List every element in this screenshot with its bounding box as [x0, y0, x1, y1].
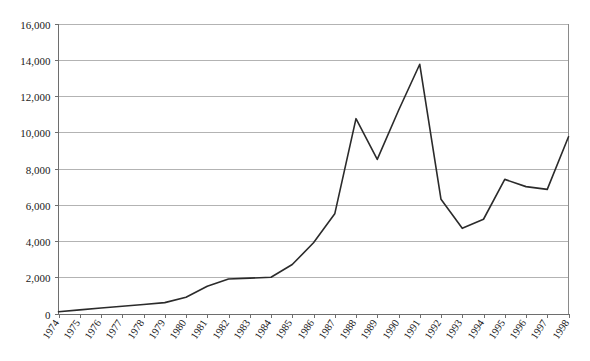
y-axis-tick-label: 16,000	[20, 19, 51, 31]
y-axis-tick-label: 14,000	[20, 55, 51, 67]
x-axis-tick-label: 1995	[487, 318, 508, 342]
x-axis-tick-label: 1997	[529, 318, 550, 342]
y-axis-tick-label: 10,000	[20, 127, 51, 139]
y-axis-ticks-group	[55, 25, 59, 315]
x-axis-tick-label: 1991	[402, 318, 423, 342]
x-axis-tick-label: 1986	[296, 318, 317, 342]
x-axis-tick-label: 1987	[317, 318, 338, 342]
x-axis-tick-label: 1994	[466, 317, 487, 341]
y-axis-tick-label: 12,000	[20, 91, 51, 103]
x-axis-tick-label: 1977	[104, 318, 125, 342]
line-chart: 02,0004,0006,0008,00010,00012,00014,0001…	[0, 0, 590, 361]
x-axis-tick-label: 1982	[211, 318, 232, 342]
chart-canvas: 02,0004,0006,0008,00010,00012,00014,0001…	[0, 0, 590, 361]
y-axis-tick-label: 8,000	[26, 164, 51, 176]
x-axis-tick-label: 1975	[62, 318, 83, 342]
x-axis-tick-label: 1974	[41, 317, 62, 341]
y-axis-tick-label: 4,000	[26, 236, 51, 248]
x-axis-tick-label: 1989	[359, 318, 380, 342]
x-axis-tick-label: 1990	[381, 318, 402, 342]
x-axis-tick-label: 1998	[551, 318, 572, 342]
x-axis-tick-label: 1996	[508, 318, 529, 342]
x-axis-tick-label: 1993	[444, 318, 465, 342]
x-axis-tick-label: 1985	[274, 318, 295, 342]
x-axis-labels-group: 1974197519761977197819791980198119821983…	[41, 317, 572, 341]
y-axis-tick-label: 6,000	[26, 200, 51, 212]
x-axis-tick-label: 1981	[189, 318, 210, 342]
gridlines-group	[59, 25, 569, 315]
x-axis-tick-label: 1976	[83, 318, 104, 342]
x-axis-tick-label: 1983	[232, 318, 253, 342]
x-axis-tick-label: 1979	[147, 318, 168, 342]
x-axis-tick-label: 1984	[253, 317, 274, 341]
x-axis-tick-label: 1978	[126, 318, 147, 342]
y-axis-labels-group: 02,0004,0006,0008,00010,00012,00014,0001…	[20, 19, 51, 321]
data-line-series-1	[59, 64, 569, 311]
chart-frame	[59, 24, 569, 314]
x-axis-tick-label: 1992	[423, 318, 444, 342]
x-axis-tick-label: 1988	[338, 318, 359, 342]
x-axis-tick-label: 1980	[168, 318, 189, 342]
y-axis-tick-label: 2,000	[26, 272, 51, 284]
data-series-group	[59, 64, 569, 311]
